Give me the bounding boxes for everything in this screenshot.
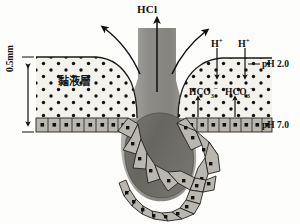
ph-lumen-label: pH 2.0: [262, 60, 289, 70]
bicarbonate-charge-2: −: [250, 85, 254, 93]
proton-label-2: H+: [238, 38, 250, 49]
bicarbonate-label-1: HCO3−: [189, 86, 218, 100]
epithelium-left: [36, 118, 128, 132]
thickness-label: 0.5mm: [6, 45, 16, 72]
bicarbonate-label-2: HCO3−: [225, 86, 254, 100]
bicarbonate-label-1-text: HCO: [189, 87, 211, 97]
bicarbonate-sub-2: 3: [247, 92, 250, 99]
proton-label-1: H+: [211, 38, 223, 49]
bicarbonate-sub-1: 3: [211, 92, 214, 99]
proton-charge-2: +: [246, 37, 250, 45]
bicarbonate-label-2-text: HCO: [225, 87, 247, 97]
hcl-label: HCl: [137, 4, 157, 15]
gastric-mucosa-diagram: HCl H+ H+ HCO3− HCO3− pH 2.0 pH 7.0 黏液層 …: [0, 0, 300, 224]
bicarbonate-charge-1: −: [214, 85, 218, 93]
mucus-layer-label: 黏液層: [58, 76, 91, 87]
ph-epithelium-label: pH 7.0: [262, 121, 289, 131]
diagram-canvas: [0, 0, 300, 224]
proton-label-2-text: H: [238, 38, 246, 49]
proton-label-1-text: H: [211, 38, 219, 49]
thickness-measure: [22, 57, 34, 132]
epithelium-right: [186, 118, 272, 132]
proton-charge-1: +: [219, 37, 223, 45]
